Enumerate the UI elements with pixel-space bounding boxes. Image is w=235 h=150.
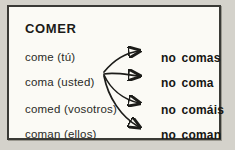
- affirmative-form-vosotros: comed (vosotros): [25, 103, 117, 115]
- negative-command-usted: no coma: [161, 76, 214, 90]
- negative-command-ellos: no coman: [161, 128, 221, 142]
- affirmative-form-usted: coma (usted): [25, 76, 95, 88]
- negative-command-vosotros: no comáis: [161, 103, 224, 117]
- card-title: COMER: [25, 21, 76, 36]
- page-background: COMER come (tú) coma (usted) comed (voso…: [0, 0, 235, 150]
- affirmative-form-tu: come (tú): [25, 51, 75, 63]
- negative-command-tu: no comas: [161, 51, 221, 65]
- conjugation-card: COMER come (tú) coma (usted) comed (voso…: [7, 5, 221, 140]
- affirmative-form-ellos: coman (ellos): [25, 128, 97, 140]
